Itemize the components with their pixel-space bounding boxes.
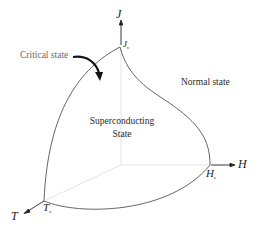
superconducting-line2: State — [80, 130, 164, 140]
t-label-text: T — [11, 209, 18, 223]
t-arrowhead-icon — [24, 209, 30, 214]
hc-label: Hc — [206, 168, 216, 180]
normal-state-label: Normal state — [181, 78, 230, 88]
phase-diagram: J H T Jc Hc Tc Critical state Normal sta… — [0, 0, 258, 233]
t-axis-arrow — [28, 201, 44, 211]
curve-tc-hc — [44, 165, 210, 209]
h-arrowhead-icon — [230, 163, 235, 166]
jc-sub: c — [127, 45, 129, 50]
critical-state-label: Critical state — [20, 51, 68, 61]
curve-jc-hc — [120, 47, 210, 165]
h-label-text: H — [238, 157, 247, 171]
tc-sub: c — [49, 209, 51, 214]
pointer-arc — [73, 57, 99, 73]
t-axis-hidden — [46, 165, 121, 200]
superconducting-line1: Superconducting — [80, 117, 164, 127]
pointer-arrowhead-icon — [95, 72, 103, 81]
hc-sub: c — [214, 175, 216, 180]
t-axis-label: T — [11, 210, 18, 222]
tc-label: Tc — [43, 202, 51, 214]
critical-state-pointer — [73, 57, 103, 81]
j-label-text: J — [116, 7, 121, 21]
j-axis-label: J — [116, 8, 121, 20]
hc-main: H — [206, 167, 214, 179]
jc-label: Jc — [123, 40, 129, 50]
superconducting-state-label: Superconducting State — [80, 117, 164, 139]
h-axis-label: H — [238, 158, 247, 170]
